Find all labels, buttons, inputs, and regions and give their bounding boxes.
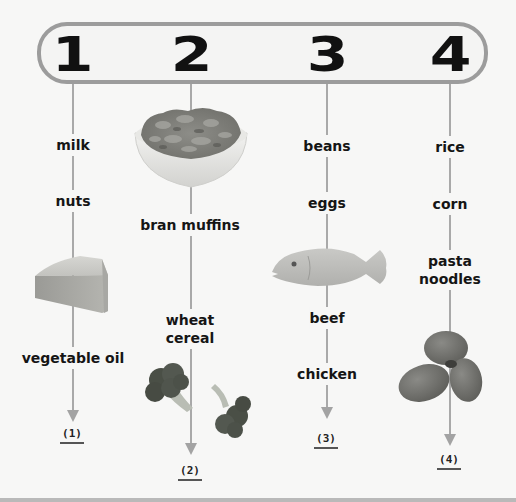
column-3-item-chicken: chicken — [297, 363, 357, 385]
answer-blank-1[interactable]: (1) — [60, 427, 84, 444]
column-1-item-milk: milk — [56, 134, 90, 156]
cereal-bowl-icon — [133, 105, 249, 189]
column-3-item-eggs: eggs — [308, 192, 346, 214]
column-4-item-pasta-noodles: pasta noodles — [419, 250, 481, 290]
broccoli-icon — [143, 362, 253, 442]
column-2-item-wheat: wheat — [166, 311, 215, 329]
category-number-2: 2 — [160, 30, 223, 78]
answer-blank-3[interactable]: (3) — [314, 432, 338, 449]
column-4-item-rice: rice — [435, 136, 465, 158]
column-2-item-wheat-cereal: wheat cereal — [166, 309, 215, 349]
potatoes-icon — [396, 328, 486, 412]
category-number-3: 3 — [296, 30, 359, 78]
column-3-item-beef: beef — [309, 307, 344, 329]
column-2-arrowhead-icon — [185, 443, 197, 455]
column-3-arrowhead-icon — [321, 407, 333, 419]
category-number-4: 4 — [419, 30, 482, 78]
column-4-item-noodles: noodles — [419, 270, 481, 288]
column-4-arrowhead-icon — [444, 434, 456, 446]
column-3-item-beans: beans — [303, 135, 350, 157]
bottom-border — [0, 498, 516, 502]
answer-blank-2[interactable]: (2) — [178, 464, 202, 481]
column-4-item-pasta: pasta — [419, 252, 481, 270]
column-2-item-cereal: cereal — [166, 329, 215, 347]
column-1-item-vegetable-oil: vegetable oil — [22, 347, 125, 369]
cheese-wedge-icon — [32, 253, 112, 315]
fish-icon — [268, 242, 392, 290]
column-2-item-bran-muffins: bran muffins — [140, 214, 240, 236]
answer-blank-4[interactable]: (4) — [437, 453, 461, 470]
column-1-item-nuts: nuts — [56, 190, 91, 212]
category-number-1: 1 — [41, 30, 104, 78]
column-4-item-corn: corn — [433, 193, 468, 215]
column-1-arrowhead-icon — [67, 410, 79, 422]
